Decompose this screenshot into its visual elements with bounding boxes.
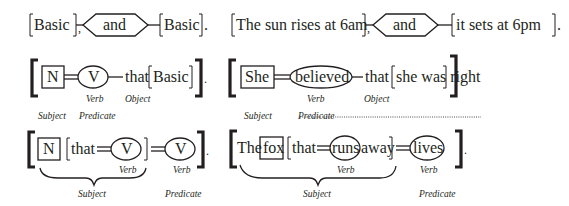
comma: , [78,20,81,36]
verb-label: Verb [86,94,103,104]
main-verb-label: Verb [420,165,437,175]
relative-word-text: that [292,140,316,156]
period: . [464,142,467,158]
rel-tail-text: away [361,140,395,156]
subject-text: N [43,141,55,157]
subject-label: Subject [38,111,66,121]
rel-verb-text: V [121,141,133,157]
big-left-bracket [32,60,38,96]
connector-text: that [125,69,149,85]
period: . [557,17,561,33]
verb-text: believed [295,69,349,85]
subject-text: N [47,69,59,85]
object-label: Object [125,94,150,104]
clause-text: Basic [34,17,70,33]
main-verb-label: Verb [173,165,190,175]
clause-text: The sun rises at 6am [236,17,368,33]
rel-verb-label: Verb [337,165,354,175]
big-left-bracket [230,60,236,96]
predicate-label: Predicate [419,189,456,199]
period: . [460,71,463,87]
object-clause-text: she was right [396,69,480,85]
conjunction-text: and [103,17,126,33]
object-clause-text: Basic [153,69,189,85]
predicate-label: Predicate [298,111,335,121]
big-right-bracket [195,60,201,96]
clause-text: it sets at 6pm [456,17,541,33]
connector-text: that [365,69,389,85]
conjunction-text: and [393,17,416,33]
subject-brace [240,165,396,185]
main-verb-text: lives [413,140,443,156]
period: . [204,71,207,87]
predicate-label: Predicate [79,111,116,121]
article-text: The [237,140,262,156]
subject-text: fox [263,140,284,156]
predicate-label: Predicate [165,189,202,199]
subject-label: Subject [303,189,331,199]
clause-text: Basic [164,17,200,33]
verb-label: Verb [307,94,324,104]
relative-word-text: that [71,141,95,157]
verb-text: V [88,69,100,85]
subject-label: Subject [78,189,106,199]
big-right-bracket [197,132,203,167]
big-left-bracket [29,132,35,167]
comma: , [367,20,370,36]
main-verb-text: V [175,141,187,157]
subject-text: She [245,69,269,85]
period: . [204,17,208,33]
rel-verb-label: Verb [119,165,136,175]
big-right-bracket [455,131,461,167]
period: . [206,143,209,159]
rel-verb-text: runs [332,140,360,156]
subject-label: Subject [244,111,272,121]
object-label: Object [364,94,389,104]
